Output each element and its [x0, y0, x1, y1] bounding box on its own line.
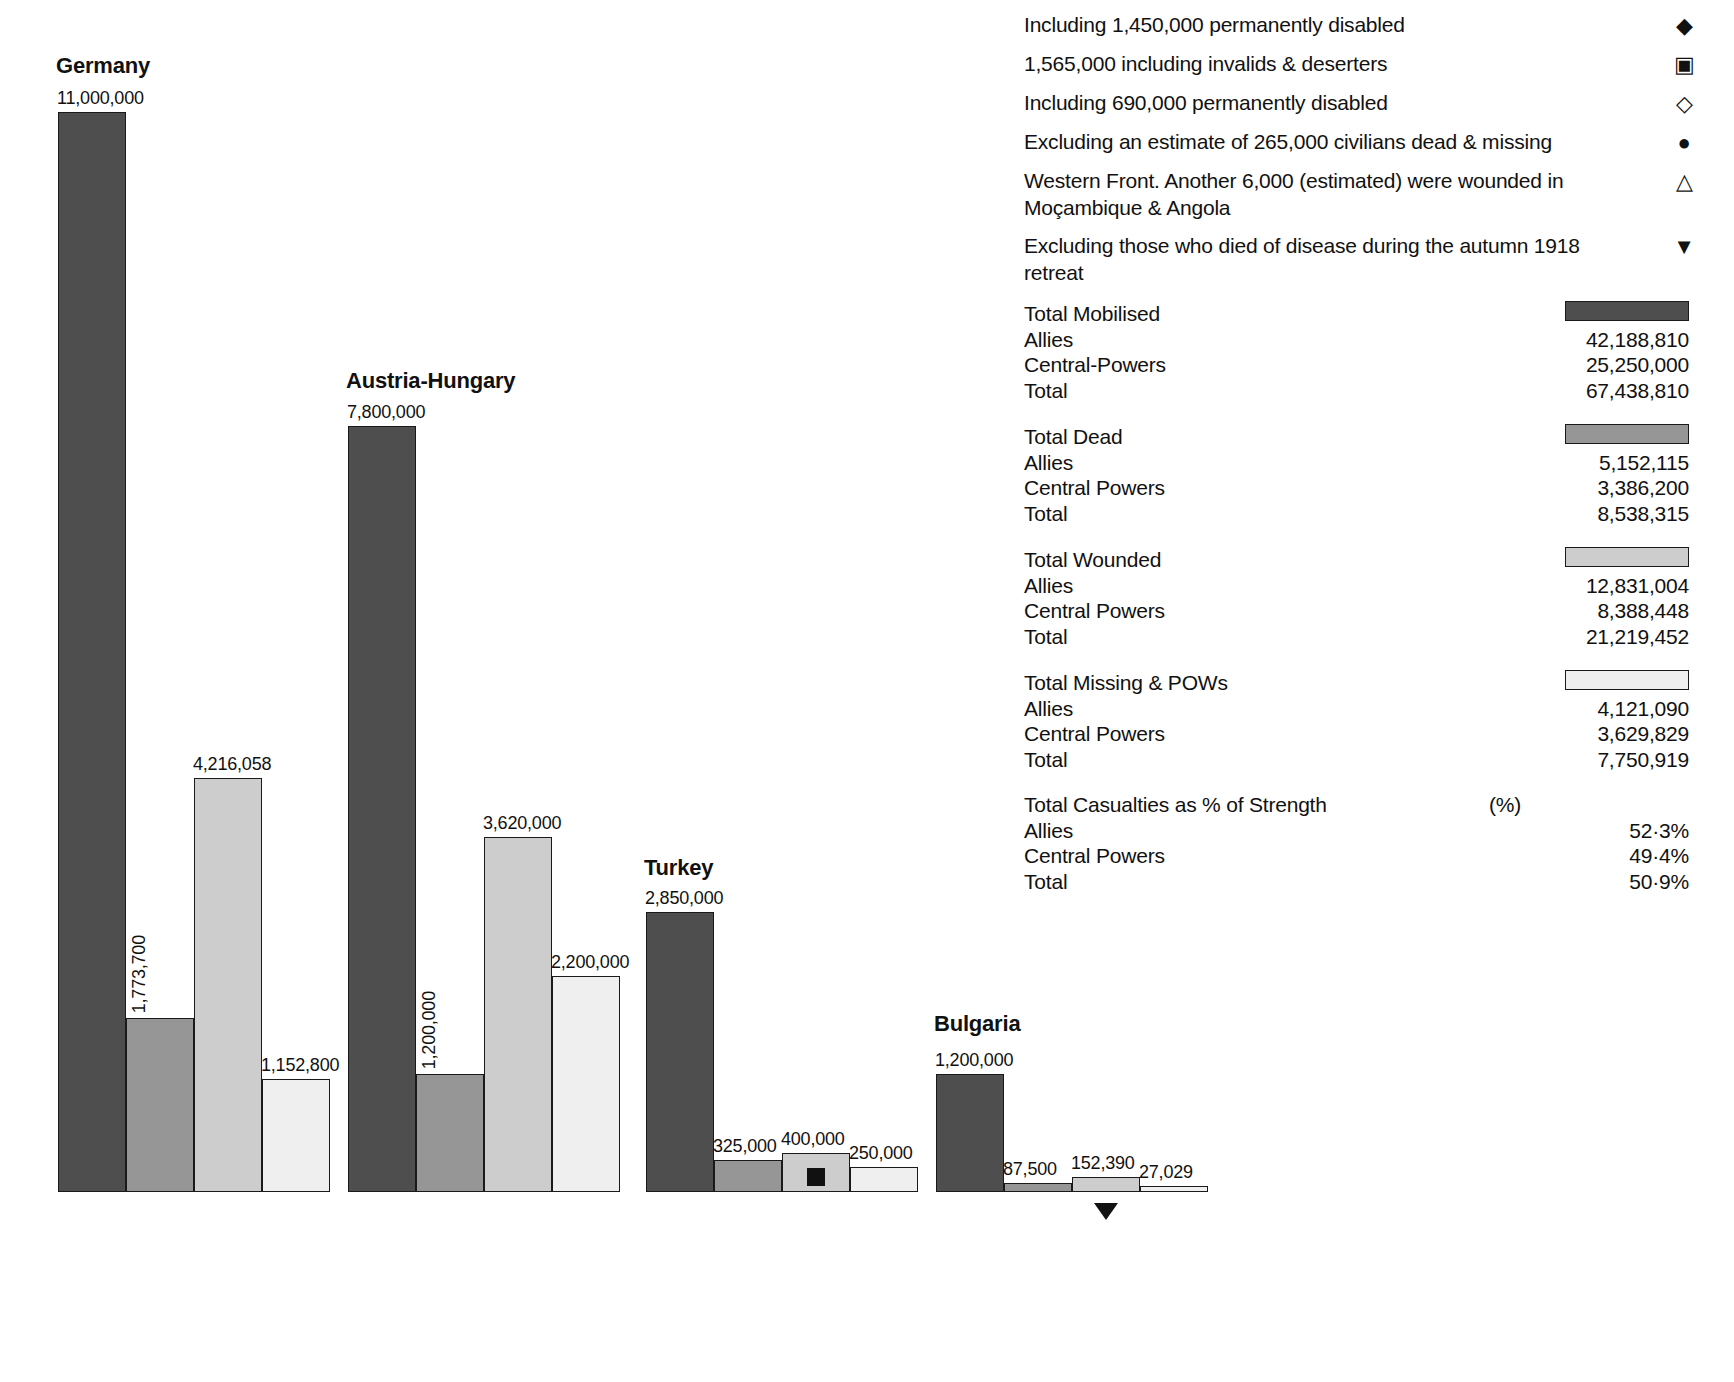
- summary-row-label: Central Powers: [1024, 599, 1165, 623]
- summary-row-label: Central-Powers: [1024, 353, 1166, 377]
- bar-rect: 7,800,000: [348, 426, 416, 1192]
- filled-diamond-icon: ◆: [1664, 12, 1704, 40]
- summary-row: Allies52·3%: [1024, 818, 1724, 844]
- bar-rect: 325,000: [714, 1160, 782, 1192]
- summary-row-value: 3,629,829: [1489, 722, 1724, 746]
- summary-row-value: 25,250,000: [1489, 353, 1724, 377]
- bar-rect: 3,620,000: [484, 837, 552, 1192]
- summary-row-value: 21,219,452: [1489, 625, 1724, 649]
- filled-triangle-down-icon: ▼: [1664, 233, 1704, 261]
- footnote-item: Western Front. Another 6,000 (estimated)…: [1024, 168, 1724, 222]
- summary-row: Central-Powers25,250,000: [1024, 352, 1724, 378]
- bar-total-dead: 325,000: [714, 1160, 782, 1192]
- bar-rect: 2,200,000: [552, 976, 620, 1192]
- summary-row-value: 5,152,115: [1489, 451, 1724, 475]
- summary-row-label: Allies: [1024, 574, 1073, 598]
- summary-row: Central Powers3,629,829: [1024, 721, 1724, 747]
- summary-row-label: Total: [1024, 748, 1067, 772]
- summary-row-value: 50·9%: [1489, 870, 1724, 894]
- bar-row: 7,800,0001,200,0003,620,0002,200,000: [348, 426, 620, 1192]
- summary-row: Total8,538,315: [1024, 501, 1724, 527]
- bar-rect: 11,000,000: [58, 112, 126, 1192]
- summary-heading-row: Total Casualties as % of Strength(%): [1024, 792, 1724, 818]
- summary-row-label: Allies: [1024, 697, 1073, 721]
- footnote-item: Including 1,450,000 permanently disabled…: [1024, 12, 1724, 40]
- summary-row: Central Powers8,388,448: [1024, 598, 1724, 624]
- summary-row: Allies12,831,004: [1024, 573, 1724, 599]
- summary-heading-label: Total Missing & POWs: [1024, 671, 1228, 695]
- bar-rect: 2,850,000: [646, 912, 714, 1192]
- summary-heading-label: Total Wounded: [1024, 548, 1161, 572]
- summary-swatch-cell: [1489, 670, 1724, 690]
- bar-rect: 4,216,058: [194, 778, 262, 1192]
- summary-row-label: Central Powers: [1024, 476, 1165, 500]
- bar-row: 11,000,0001,773,7004,216,0581,152,800: [58, 112, 330, 1192]
- bar-value-label: 3,620,000: [483, 813, 561, 834]
- bar-value-label: 250,000: [849, 1143, 913, 1164]
- summary-row: Allies4,121,090: [1024, 696, 1724, 722]
- bar-value-label: 1,200,000: [419, 991, 440, 1069]
- summary-swatch-cell: [1489, 547, 1724, 567]
- country-label: Germany: [56, 53, 150, 79]
- footnote-item: Excluding an estimate of 265,000 civilia…: [1024, 129, 1724, 157]
- summary-row-label: Allies: [1024, 451, 1073, 475]
- summary-heading-label: Total Dead: [1024, 425, 1122, 449]
- summary-heading-label: Total Mobilised: [1024, 302, 1160, 326]
- footnote-text: Excluding an estimate of 265,000 civilia…: [1024, 130, 1552, 153]
- summary-row: Total21,219,452: [1024, 624, 1724, 650]
- bar-value-label: 2,200,000: [551, 952, 629, 973]
- bar-chart-area: Germany11,000,0001,773,7004,216,0581,152…: [0, 0, 1010, 1382]
- bar-value-label: 1,773,700: [129, 935, 150, 1013]
- bar-value-label: 7,800,000: [347, 402, 425, 423]
- summary-block: Total WoundedAllies12,831,004Central Pow…: [1024, 546, 1724, 649]
- right-panel: Including 1,450,000 permanently disabled…: [1024, 0, 1734, 1382]
- summary-row: Total7,750,919: [1024, 747, 1724, 773]
- summary-row-value: 42,188,810: [1489, 328, 1724, 352]
- summary-row-value: 8,388,448: [1489, 599, 1724, 623]
- footnote-item: Excluding those who died of disease duri…: [1024, 233, 1724, 287]
- bar-rect: 1,152,800: [262, 1079, 330, 1192]
- country-label: Bulgaria: [934, 1011, 1020, 1037]
- summary-table: Total MobilisedAllies42,188,810Central-P…: [1024, 300, 1724, 914]
- summary-row-label: Total: [1024, 379, 1067, 403]
- footnote-text: Western Front. Another 6,000 (estimated)…: [1024, 169, 1563, 219]
- country-label: Turkey: [644, 855, 713, 881]
- summary-row: Allies5,152,115: [1024, 450, 1724, 476]
- filled-square-icon: ▣: [1664, 51, 1704, 79]
- bar-row: 2,850,000325,000400,000250,000: [646, 912, 918, 1192]
- legend-swatch: [1565, 670, 1689, 690]
- legend-swatch: [1565, 301, 1689, 321]
- footnotes-legend: Including 1,450,000 permanently disabled…: [1024, 12, 1724, 298]
- bar-total-missing-pows: 250,000: [850, 1167, 918, 1192]
- summary-row-value: 3,386,200: [1489, 476, 1724, 500]
- footnote-text: Including 1,450,000 permanently disabled: [1024, 13, 1405, 36]
- legend-swatch: [1565, 547, 1689, 567]
- summary-row-label: Central Powers: [1024, 844, 1165, 868]
- bar-rect: 250,000: [850, 1167, 918, 1192]
- filled-square-icon: [807, 1168, 825, 1186]
- filled-circle-icon: ●: [1664, 129, 1704, 157]
- summary-row: Central Powers49·4%: [1024, 843, 1724, 869]
- summary-heading-value: (%): [1489, 793, 1724, 817]
- summary-heading-row: Total Wounded: [1024, 546, 1724, 573]
- bar-total-dead: 1,200,000: [416, 1074, 484, 1192]
- summary-row-value: 67,438,810: [1489, 379, 1724, 403]
- legend-swatch: [1565, 424, 1689, 444]
- bar-value-label: 1,200,000: [935, 1050, 1013, 1071]
- summary-heading-label: Total Casualties as % of Strength: [1024, 793, 1327, 817]
- summary-row-value: 8,538,315: [1489, 502, 1724, 526]
- summary-heading-row: Total Dead: [1024, 423, 1724, 450]
- summary-row-label: Central Powers: [1024, 722, 1165, 746]
- bar-total-missing-pows: 1,152,800: [262, 1079, 330, 1192]
- bar-total-dead: 1,773,700: [126, 1018, 194, 1192]
- summary-row-label: Total: [1024, 870, 1067, 894]
- country-label: Austria-Hungary: [346, 368, 515, 394]
- bar-value-label: 400,000: [781, 1129, 845, 1150]
- bar-total-mobilised: 2,850,000: [646, 912, 714, 1192]
- bar-value-label: 2,850,000: [645, 888, 723, 909]
- footnote-text: Including 690,000 permanently disabled: [1024, 91, 1388, 114]
- bar-total-wounded: 3,620,000: [484, 837, 552, 1192]
- summary-row-label: Allies: [1024, 819, 1073, 843]
- summary-row-value: 12,831,004: [1489, 574, 1724, 598]
- summary-block: Total Casualties as % of Strength(%)Alli…: [1024, 792, 1724, 894]
